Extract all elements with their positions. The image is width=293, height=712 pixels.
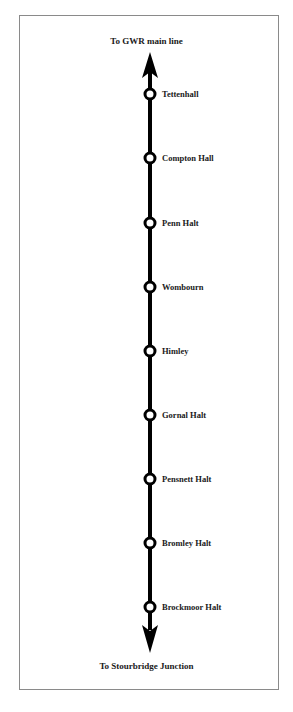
- station-label: Gornal Halt: [162, 410, 206, 420]
- station-label: Tettenhall: [162, 89, 199, 99]
- station-label: Compton Hall: [162, 153, 214, 163]
- station-marker-icon: [145, 153, 155, 163]
- station-marker-icon: [145, 410, 155, 420]
- station-label: Brockmoor Halt: [162, 602, 221, 612]
- station-marker-icon: [145, 89, 155, 99]
- station-marker-icon: [145, 538, 155, 548]
- station-marker-icon: [145, 602, 155, 612]
- route-line-diagram: [0, 0, 293, 712]
- station-marker-icon: [145, 474, 155, 484]
- station-label: Wombourn: [162, 282, 204, 292]
- station-marker-icon: [145, 282, 155, 292]
- station-label: Pensnett Halt: [162, 474, 211, 484]
- station-marker-icon: [145, 346, 155, 356]
- station-label: Penn Halt: [162, 218, 199, 228]
- station-label: Bromley Halt: [162, 538, 211, 548]
- station-marker-icon: [145, 218, 155, 228]
- station-label: Himley: [162, 346, 188, 356]
